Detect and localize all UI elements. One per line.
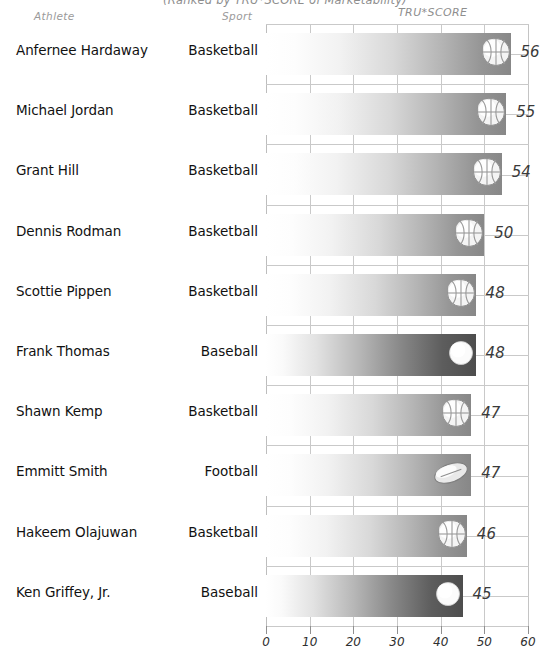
basketball-icon (481, 37, 511, 71)
axis-tick-label: 50 (477, 635, 492, 649)
axis-tick-10 (310, 626, 311, 634)
axis-tick-label: 0 (262, 635, 270, 649)
sport-name: Basketball (120, 223, 258, 239)
basketball-icon (446, 278, 476, 312)
basketball-icon (441, 398, 471, 432)
column-header-truscore: TRU*SCORE (398, 6, 467, 19)
score-bar (266, 33, 511, 75)
axis-tick-20 (353, 626, 354, 634)
score-bar (266, 334, 476, 376)
score-value: 48 (486, 344, 505, 362)
score-value: 47 (481, 464, 500, 482)
chart-row: Dennis RodmanBasketball50 (0, 205, 559, 265)
baseball-icon (435, 581, 461, 611)
basketball-icon (454, 218, 484, 252)
score-value: 50 (494, 224, 513, 242)
score-value: 56 (521, 43, 540, 61)
football-icon (432, 459, 470, 491)
axis-tick-30 (397, 626, 398, 634)
chart-page: (Ranked by TRU*SCORE of Marketability) A… (0, 0, 559, 652)
sport-name: Basketball (120, 524, 258, 540)
score-value: 55 (516, 103, 535, 121)
chart-row: Shawn KempBasketball47 (0, 385, 559, 445)
sport-name: Basketball (120, 102, 258, 118)
sport-name: Basketball (120, 162, 258, 178)
score-value: 48 (486, 284, 505, 302)
score-bar (266, 93, 506, 135)
basketball-icon (476, 97, 506, 131)
basketball-icon (472, 157, 502, 191)
column-header-athlete: Athlete (34, 10, 75, 22)
score-value: 45 (473, 585, 492, 603)
score-value: 46 (477, 525, 496, 543)
sport-name: Basketball (120, 42, 258, 58)
sport-name: Basketball (120, 403, 258, 419)
score-value: 47 (481, 404, 500, 422)
score-bar (266, 575, 463, 617)
sport-name: Football (120, 463, 258, 479)
axis-tick-60 (528, 626, 529, 634)
column-header-sport: Sport (222, 10, 252, 22)
score-value: 54 (512, 163, 531, 181)
axis-tick-0 (266, 626, 267, 634)
chart-row: Scottie PippenBasketball48 (0, 265, 559, 325)
axis-tick-label: 10 (302, 635, 317, 649)
chart-row: Ken Griffey, Jr.Baseball45 (0, 566, 559, 626)
chart-row: Frank ThomasBaseball48 (0, 325, 559, 385)
score-bar (266, 153, 502, 195)
score-bar (266, 214, 484, 256)
chart-row: Hakeem OlajuwanBasketball46 (0, 506, 559, 566)
chart-row: Grant HillBasketball54 (0, 144, 559, 204)
axis-tick-40 (441, 626, 442, 634)
chart-row: Emmitt SmithFootball47 (0, 445, 559, 505)
axis-tick-label: 30 (389, 635, 404, 649)
x-axis: 0102030405060 (0, 626, 559, 652)
score-bar (266, 274, 476, 316)
basketball-icon (437, 519, 467, 553)
sport-name: Basketball (120, 283, 258, 299)
axis-tick-label: 20 (346, 635, 361, 649)
sport-name: Baseball (120, 584, 258, 600)
baseball-icon (448, 340, 474, 370)
axis-tick-label: 40 (433, 635, 448, 649)
chart-row: Anfernee HardawayBasketball56 (0, 24, 559, 84)
axis-tick-50 (484, 626, 485, 634)
sport-name: Baseball (120, 343, 258, 359)
axis-tick-label: 60 (520, 635, 535, 649)
chart-row: Michael JordanBasketball55 (0, 84, 559, 144)
